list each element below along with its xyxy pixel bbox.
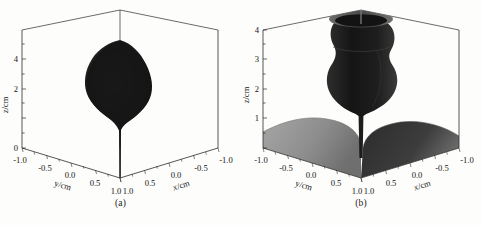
- plot-a-y-tick-05: 0.5: [90, 178, 101, 188]
- plot-b-y-tick-0: 0.0: [306, 170, 317, 180]
- panel-a: 0 2 4 z/cm -1.0 -0.5 0.0 0.5 1.0 y/cm: [0, 0, 241, 225]
- plot-a-z-tick-2: 2: [14, 84, 18, 94]
- plot-b-y-tick-n1: -1.0: [254, 155, 268, 165]
- plot-a-y-tick-n05: -0.5: [38, 163, 52, 173]
- plot-b-x-tick-n1: -1.0: [460, 155, 474, 165]
- panel-a-caption: (a): [0, 198, 241, 208]
- plot-b-x-tick-0: 0.0: [412, 170, 423, 180]
- plot-b-canvas: 1 2 3 4 z/cm -1.0 -0.5 0.0 0.5 1.0 y/: [241, 0, 481, 200]
- plot-a-z-tick-4: 4: [14, 54, 19, 64]
- plot-b-z-tick-2: 2: [255, 84, 259, 94]
- plot-a-surfaces: [85, 40, 152, 178]
- surface-spike-core: [119, 126, 121, 178]
- plot-a-y-axis-label: y/cm: [53, 178, 73, 193]
- plot-a-x-tick-05: 0.5: [145, 178, 156, 188]
- plot-b-y-tick-1: 1.0: [352, 186, 363, 196]
- surface-goblet-lobe: [327, 14, 397, 119]
- plot-b-y-tick-05: 0.5: [331, 178, 342, 188]
- panel-b: 1 2 3 4 z/cm -1.0 -0.5 0.0 0.5 1.0 y/: [241, 0, 481, 225]
- plot-b-z-tick-3: 3: [255, 54, 259, 64]
- plot-b-y-axis-label: y/cm: [294, 178, 314, 193]
- panel-b-caption: (b): [241, 198, 481, 208]
- plot-a-canvas: 0 2 4 z/cm -1.0 -0.5 0.0 0.5 1.0 y/cm: [0, 0, 241, 200]
- plot-b-x-tick-1: 1.0: [364, 186, 375, 196]
- plot-b-z-axis-label: z/cm: [241, 86, 251, 103]
- plot-a-z-tick-0: 0: [14, 143, 18, 153]
- plot-b-x-tick-05: 0.5: [386, 178, 397, 188]
- plot-b-surfaces: [263, 10, 459, 178]
- plot-a-z-axis: [22, 44, 26, 148]
- plot-a-y-tick-1: 1.0: [111, 186, 122, 196]
- plot-b-z-tick-1: 1: [255, 113, 259, 123]
- plot-b-x-tick-n05: -0.5: [435, 163, 449, 173]
- surface-left-fan: [263, 118, 361, 178]
- plot-a-x-tick-n1: -1.0: [219, 155, 233, 165]
- figure-two-panel-3d-surfaces: 0 2 4 z/cm -1.0 -0.5 0.0 0.5 1.0 y/cm: [0, 0, 481, 225]
- surface-top-spike: [360, 10, 361, 24]
- plot-a-x-tick-n05: -0.5: [194, 163, 208, 173]
- plot-b-z-tick-4: 4: [255, 25, 260, 35]
- plot-b-y-tick-n05: -0.5: [279, 163, 293, 173]
- plot-a-z-axis-label: z/cm: [0, 96, 10, 113]
- plot-a-x-tick-0: 0.0: [171, 170, 182, 180]
- plot-a-y-tick-0: 0.0: [65, 170, 76, 180]
- plot-a-y-tick-n1: -1.0: [13, 155, 27, 165]
- plot-a-x-tick-1: 1.0: [123, 186, 134, 196]
